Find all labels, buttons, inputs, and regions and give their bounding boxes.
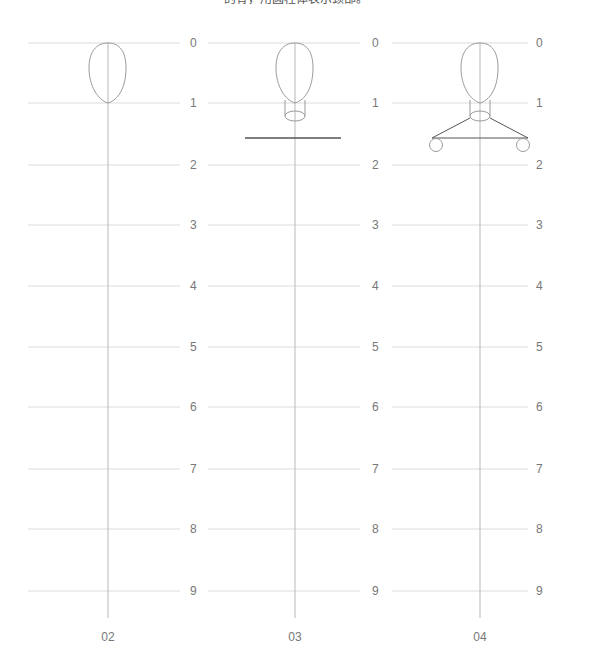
tick-4: 4 [190,279,197,293]
tick-9: 9 [190,584,197,598]
tick-8: 8 [190,522,197,536]
tick-labels: 0 1 2 3 4 5 6 7 8 9 [190,36,197,598]
right-shoulder-joint [517,139,530,152]
tick-9: 9 [372,584,379,598]
tick-4: 4 [536,279,543,293]
tick-7: 7 [190,462,197,476]
tick-1: 1 [372,96,379,110]
tick-6: 6 [372,400,379,414]
gridlines [208,43,360,591]
left-shoulder-joint [430,139,443,152]
figure-proportion-diagram: 0 1 2 3 4 5 6 7 8 9 02 0 [0,0,591,668]
tick-4: 4 [372,279,379,293]
tick-2: 2 [536,158,543,172]
tick-labels: 0 1 2 3 4 5 6 7 8 9 [536,36,543,598]
column-label-03: 03 [288,630,302,644]
tick-0: 0 [372,36,379,50]
column-04: 0 1 2 3 4 5 6 7 8 9 04 [392,36,543,644]
tick-labels: 0 1 2 3 4 5 6 7 8 9 [372,36,379,598]
tick-0: 0 [536,36,543,50]
column-03: 0 1 2 3 4 5 6 7 8 9 03 [208,36,379,644]
tick-6: 6 [536,400,543,414]
tick-5: 5 [536,340,543,354]
tick-1: 1 [536,96,543,110]
tick-8: 8 [372,522,379,536]
tick-3: 3 [372,218,379,232]
tick-7: 7 [372,462,379,476]
column-02: 0 1 2 3 4 5 6 7 8 9 02 [28,36,197,644]
tick-5: 5 [190,340,197,354]
tick-1: 1 [190,96,197,110]
tick-5: 5 [372,340,379,354]
tick-8: 8 [536,522,543,536]
gridlines [392,43,528,591]
tick-0: 0 [190,36,197,50]
tick-3: 3 [190,218,197,232]
gridlines [28,43,180,591]
tick-9: 9 [536,584,543,598]
column-label-02: 02 [101,630,115,644]
tick-3: 3 [536,218,543,232]
tick-2: 2 [190,158,197,172]
tick-2: 2 [372,158,379,172]
tick-7: 7 [536,462,543,476]
tick-6: 6 [190,400,197,414]
column-label-04: 04 [473,630,487,644]
